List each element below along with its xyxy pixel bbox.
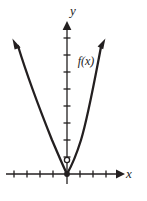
open-circle-point (64, 157, 69, 162)
y-axis-label: y (68, 3, 76, 18)
x-axis-label: x (125, 166, 132, 181)
figure-background (0, 0, 147, 201)
coordinate-plane: x y f(x) (0, 0, 147, 201)
closed-dot-point (64, 171, 70, 177)
graph-figure: x y f(x) (0, 0, 147, 201)
function-label: f(x) (78, 54, 95, 68)
